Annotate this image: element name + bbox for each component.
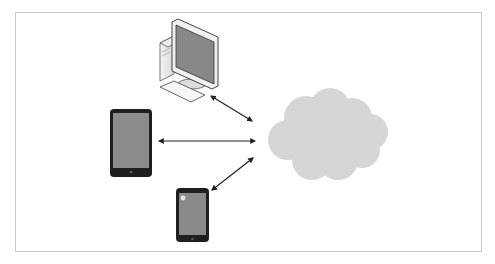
tablet-icon: [110, 109, 152, 177]
desktop-computer-icon: [160, 19, 218, 102]
arrow-desktop-cloud: [211, 96, 252, 121]
network-diagram: [0, 0, 495, 264]
arrow-smartphone-cloud: [212, 158, 253, 190]
smartphone-icon: [176, 188, 209, 242]
tablet-screen: [113, 113, 149, 168]
cloud-icon: [268, 88, 388, 180]
